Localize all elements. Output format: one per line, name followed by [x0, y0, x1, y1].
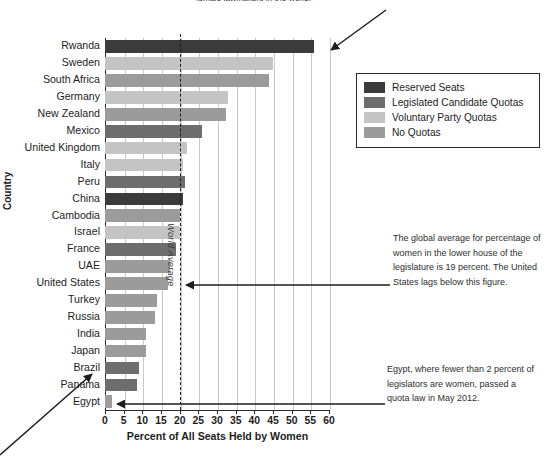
bar-row[interactable]	[105, 258, 329, 275]
bar[interactable]	[105, 91, 228, 104]
x-tick	[236, 410, 237, 414]
bar-row[interactable]	[105, 55, 329, 72]
category-label-new-zealand: New Zealand	[0, 107, 100, 119]
legend-label: Reserved Seats	[392, 82, 464, 93]
bar-row[interactable]	[105, 309, 329, 326]
legend-item[interactable]: Reserved Seats	[364, 80, 539, 95]
bar-row[interactable]	[105, 156, 329, 173]
top-caption: female lawmakers in the world.	[196, 0, 386, 4]
bar[interactable]	[105, 260, 170, 273]
bar-row[interactable]	[105, 123, 329, 140]
bar[interactable]	[105, 209, 180, 222]
x-tick-label: 10	[137, 415, 149, 426]
bar[interactable]	[105, 277, 168, 290]
arrow-rwanda	[331, 10, 386, 50]
x-tick-label: 50	[286, 415, 298, 426]
category-label-japan: Japan	[0, 344, 100, 356]
bar[interactable]	[105, 74, 269, 87]
bar-row[interactable]	[105, 393, 329, 410]
x-tick	[105, 410, 106, 414]
x-tick	[329, 410, 330, 414]
bar-row[interactable]	[105, 275, 329, 292]
category-label-united-states: United States	[0, 276, 100, 288]
category-label-egypt: Egypt	[0, 395, 100, 407]
category-label-south-africa: South Africa	[0, 73, 100, 85]
bar[interactable]	[105, 311, 155, 324]
category-label-uae: UAE	[0, 259, 100, 271]
bar[interactable]	[105, 57, 273, 70]
bar[interactable]	[105, 40, 314, 53]
legend-swatch-icon	[364, 127, 385, 139]
bar-row[interactable]	[105, 207, 329, 224]
legend-label: Legislated Candidate Quotas	[392, 97, 523, 108]
x-tick-label: 60	[323, 415, 335, 426]
x-tick-label: 30	[211, 415, 223, 426]
category-label-india: India	[0, 327, 100, 339]
bar[interactable]	[105, 193, 183, 206]
legend-item[interactable]: Legislated Candidate Quotas	[364, 95, 539, 110]
world-average-label: World Average	[166, 223, 176, 287]
category-label-panama: Panama	[0, 378, 100, 390]
x-tick-label: 55	[305, 415, 317, 426]
legend-swatch-icon	[364, 112, 385, 124]
x-tick	[310, 410, 311, 414]
x-tick	[142, 410, 143, 414]
annotation-world-average: The global average for percentage of wom…	[393, 231, 541, 289]
bar[interactable]	[105, 108, 226, 121]
legend: Reserved SeatsLegislated Candidate Quota…	[356, 73, 540, 148]
x-tick	[273, 410, 274, 414]
category-label-peru: Peru	[0, 175, 100, 187]
x-tick-label: 45	[267, 415, 279, 426]
category-label-cambodia: Cambodia	[0, 209, 100, 221]
gridline	[330, 38, 331, 410]
bar[interactable]	[105, 142, 187, 155]
category-label-brazil: Brazil	[0, 361, 100, 373]
annotation-egypt: Egypt, where fewer than 2 percent of leg…	[387, 362, 539, 406]
x-tick	[180, 410, 181, 414]
bar[interactable]	[105, 159, 183, 172]
category-label-germany: Germany	[0, 90, 100, 102]
bar[interactable]	[105, 395, 112, 408]
bar[interactable]	[105, 379, 137, 392]
x-tick	[161, 410, 162, 414]
bar-row[interactable]	[105, 224, 329, 241]
bar-row[interactable]	[105, 376, 329, 393]
x-tick-label: 25	[193, 415, 205, 426]
category-label-rwanda: Rwanda	[0, 39, 100, 51]
bar-row[interactable]	[105, 292, 329, 309]
bar-row[interactable]	[105, 38, 329, 55]
x-tick-label: 40	[249, 415, 261, 426]
x-tick-label: 0	[102, 415, 108, 426]
category-label-china: China	[0, 192, 100, 204]
bar-row[interactable]	[105, 139, 329, 156]
bar[interactable]	[105, 125, 202, 138]
bar-row[interactable]	[105, 173, 329, 190]
bar[interactable]	[105, 362, 139, 375]
legend-swatch-icon	[364, 97, 385, 109]
bar-row[interactable]	[105, 89, 329, 106]
x-tick	[124, 410, 125, 414]
bar-row[interactable]	[105, 359, 329, 376]
bar-row[interactable]	[105, 241, 329, 258]
category-label-france: France	[0, 242, 100, 254]
world-average-line	[180, 34, 181, 410]
legend-item[interactable]: No Quotas	[364, 125, 539, 140]
bar[interactable]	[105, 176, 185, 189]
category-label-mexico: Mexico	[0, 124, 100, 136]
category-label-sweden: Sweden	[0, 56, 100, 68]
bar-row[interactable]	[105, 106, 329, 123]
category-label-russia: Russia	[0, 310, 100, 322]
x-tick	[292, 410, 293, 414]
legend-item[interactable]: Voluntary Party Quotas	[364, 110, 539, 125]
bar[interactable]	[105, 294, 157, 307]
bar-row[interactable]	[105, 190, 329, 207]
bar[interactable]	[105, 345, 146, 358]
bar-row[interactable]	[105, 342, 329, 359]
x-axis-title: Percent of All Seats Held by Women	[105, 430, 330, 442]
bar[interactable]	[105, 328, 146, 341]
bar-row[interactable]	[105, 325, 329, 342]
y-axis-category-labels: RwandaSwedenSouth AfricaGermanyNew Zeala…	[0, 38, 100, 410]
category-label-israel: Israel	[0, 225, 100, 237]
bar-row[interactable]	[105, 72, 329, 89]
x-tick-label: 35	[230, 415, 242, 426]
